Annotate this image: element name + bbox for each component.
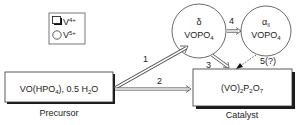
precursor-node: VO(HPO4), 0.5 H2O Precursor: [5, 72, 115, 118]
arrow-2: 2: [115, 76, 191, 93]
arrow-4: 4: [227, 16, 241, 35]
v4-square-icon: [53, 17, 63, 26]
legend: V4+ V5+: [49, 13, 85, 44]
delta-formula: VOPO4: [184, 30, 214, 41]
v5-circle-icon: [53, 31, 61, 39]
precursor-caption: Precursor: [39, 108, 78, 118]
arrow-3-label: 3: [206, 60, 211, 70]
reaction-pathway-diagram: V4+ V5+ VO(HPO4), 0.5 H2O Precursor (VO)…: [0, 0, 308, 125]
arrow-1: 1: [115, 46, 188, 88]
arrow-3: 3: [206, 55, 229, 70]
precursor-formula: VO(HPO4), 0.5 H2O: [20, 84, 99, 95]
arrow-1-label: 1: [143, 54, 148, 64]
arrow-5: 5(?): [236, 55, 276, 69]
delta-symbol: δ: [196, 17, 201, 27]
catalyst-node: (VO)2P2O7 Catalyst: [193, 69, 295, 120]
arrow-5-label: 5(?): [260, 56, 276, 66]
arrow-2-label: 2: [157, 76, 162, 86]
arrow-4-label: 4: [229, 16, 234, 26]
alpha-formula: VOPO4: [251, 30, 281, 41]
catalyst-formula: (VO)2P2O7: [221, 83, 264, 94]
catalyst-caption: Catalyst: [226, 110, 259, 120]
alpha-ii-vopo4-node: αII VOPO4: [241, 6, 291, 56]
